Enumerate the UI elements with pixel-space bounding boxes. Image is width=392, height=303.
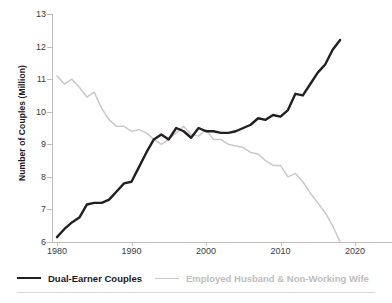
- series-line-dual-earner: [57, 40, 340, 237]
- legend-item-employed-husband[interactable]: Employed Husband & Non-Working Wife: [155, 269, 369, 287]
- footer-divider: [17, 292, 375, 293]
- chart-figure: Number of Couples (Million) 131211109876…: [0, 0, 392, 303]
- legend-item-dual-earner[interactable]: Dual-Earner Couples: [17, 269, 142, 287]
- chart-legend: Dual-Earner Couples Employed Husband & N…: [0, 269, 392, 289]
- legend-line-icon: [17, 277, 41, 279]
- series-line-employed-husband: [57, 76, 340, 242]
- legend-line-icon: [155, 278, 179, 279]
- chart-plot-area: [0, 0, 392, 303]
- legend-label: Dual-Earner Couples: [48, 273, 142, 284]
- legend-label: Employed Husband & Non-Working Wife: [186, 273, 369, 284]
